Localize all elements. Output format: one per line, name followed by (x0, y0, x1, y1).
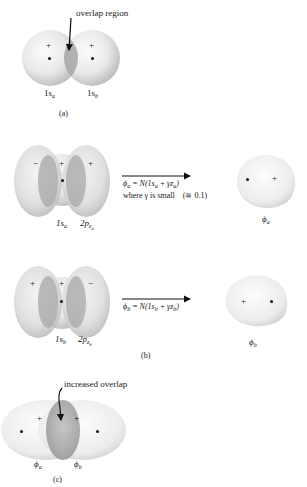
phi-b-c-subscript: b (79, 464, 82, 470)
phi-a-c-subscript: a (39, 464, 42, 470)
sign-minus-left-lobe-b1: − (33, 159, 38, 168)
nucleus-dot-phi-a-c (20, 430, 23, 433)
sign-plus-center-b2: + (59, 279, 64, 288)
overlap-left-b2 (38, 276, 58, 328)
nucleus-b-dot (91, 57, 94, 60)
eq-b-rhs-pre: = N(1s (130, 302, 155, 311)
label-2pz-b-b2: 2pzb (78, 335, 92, 347)
orbital-phi-a (237, 155, 295, 208)
phi-a-subscript: a (267, 219, 270, 225)
eq-b-rhs-mid: + γz (158, 302, 174, 311)
label-phi-a: ϕa (262, 215, 270, 225)
label-2pz-a-b1: 2pza (80, 219, 94, 231)
nucleus-dot-phi-b-c (96, 430, 99, 433)
panel-b-caption: (b) (141, 351, 150, 360)
panel-a-orbitals (22, 18, 120, 86)
increased-overlap-shape (46, 400, 80, 460)
nucleus-dot-b2 (60, 300, 63, 303)
eq-b-rhs-post: ) (176, 302, 179, 311)
panel-c-orbitals (1, 388, 126, 460)
overlap-right-b2 (66, 276, 86, 328)
sign-plus-center-b1: + (59, 159, 64, 168)
sign-plus-1s-a: + (46, 41, 51, 50)
eq-a-rhs-post: ) (176, 179, 179, 188)
label-phi-a-c: ϕa (34, 460, 42, 470)
equation-phi-a: ϕa = N(1sa + γza) (123, 180, 179, 189)
orbital-phi-b (226, 275, 288, 326)
orbital-diagram-canvas (0, 0, 307, 487)
label-phi-b: ϕb (249, 338, 257, 348)
panel-a-caption: (a) (59, 109, 68, 118)
nucleus-a-dot (48, 57, 51, 60)
increased-overlap-label: increased overlap (64, 380, 127, 389)
label-1s-text: 1s (56, 218, 64, 228)
label-1s-b: 1sb (87, 89, 98, 99)
label-1s-a-subscript: a (52, 93, 55, 99)
overlap-left-b1 (38, 155, 58, 207)
sign-plus-phi-b-c: + (74, 414, 79, 423)
label-1s-subscript: a (64, 223, 67, 229)
sign-plus-right-lobe-b1: + (88, 159, 93, 168)
label-1s-a-text: 1s (44, 88, 52, 98)
eq-a-rhs-pre: = N(1s (130, 179, 155, 188)
sign-plus-1s-b: + (89, 41, 94, 50)
equation-note: where γ is small(≅ 0.1) (123, 192, 207, 200)
label-1s-b-text: 1s (87, 88, 95, 98)
label-1s-text-b2: 1s (55, 334, 63, 344)
label-2p-subsubscript: a (91, 226, 94, 231)
label-2p-text-b2: 2p (78, 334, 87, 344)
nucleus-dot-b1 (61, 179, 64, 182)
sign-plus-phi-b: + (241, 297, 246, 306)
sign-plus-left-lobe-b2: + (30, 279, 35, 288)
label-1s-b-subscript: b (95, 93, 98, 99)
label-1s-a-b1: 1sa (56, 219, 67, 229)
label-1s-a: 1sa (44, 89, 55, 99)
overlap-right-b1 (66, 155, 86, 207)
label-1s-b-b2: 1sb (55, 335, 66, 345)
sign-plus-phi-a-c: + (37, 414, 42, 423)
eq-a-rhs-mid: + γz (158, 179, 174, 188)
label-1s-subscript-b2: b (63, 339, 66, 345)
label-phi-b-c: ϕb (74, 460, 82, 470)
note-text: where γ is small (123, 191, 175, 200)
nucleus-dot-phi-a (246, 178, 249, 181)
note-value: (≅ 0.1) (183, 191, 207, 200)
equation-phi-b: ϕb = N(1sb + γzb) (123, 303, 179, 312)
label-2p-subsubscript-b2: b (89, 342, 92, 347)
overlap-region-label: overlap region (76, 9, 128, 18)
panel-c-caption: (c) (53, 475, 62, 484)
sign-plus-phi-a: + (272, 174, 277, 183)
nucleus-dot-phi-b (270, 300, 273, 303)
phi-b-subscript: b (254, 342, 257, 348)
label-2p-text: 2p (80, 218, 89, 228)
sign-minus-right-lobe-b2: − (88, 279, 93, 288)
